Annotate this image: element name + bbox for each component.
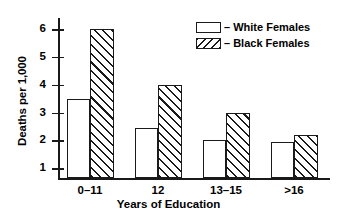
y-axis-line (58, 18, 60, 180)
bar-black-females-1 (158, 85, 182, 179)
bar-white-females-1 (135, 128, 159, 179)
legend-item-black-females: – Black Females (196, 36, 310, 50)
chart-legend: – White Females– Black Females (196, 20, 310, 52)
y-tick-3: 3 (52, 113, 64, 114)
x-tick-label-3: >16 (284, 184, 304, 196)
x-tick-label-2: 13–15 (210, 184, 242, 196)
legend-label-0: – White Females (224, 21, 310, 33)
legend-label-1: – Black Females (224, 37, 310, 49)
bar-black-females-0 (90, 29, 114, 178)
y-tick-2: 2 (52, 140, 64, 141)
bar-white-females-0 (67, 99, 91, 179)
y-tick-4: 4 (52, 85, 64, 86)
x-tick-label-0: 0–11 (78, 184, 103, 196)
legend-swatch-hatched-icon (196, 38, 221, 49)
y-tick-label-6: 6 (40, 23, 46, 35)
bar-black-females-2 (226, 113, 250, 179)
legend-swatch-open-icon (196, 22, 221, 33)
y-tick-label-2: 2 (40, 135, 46, 147)
y-tick-label-4: 4 (40, 79, 46, 91)
y-tick-6: 6 (52, 29, 64, 30)
bar-chart-figure: Deaths per 1,000 123456 0–111213–15>16 Y… (0, 0, 337, 220)
bar-black-females-3 (294, 135, 318, 179)
y-tick-label-3: 3 (40, 107, 46, 119)
y-axis-title: Deaths per 1,000 (16, 26, 28, 176)
bar-white-females-2 (203, 140, 227, 178)
y-tick-5: 5 (52, 57, 64, 58)
x-tick-label-1: 12 (152, 184, 165, 196)
y-tick-1: 1 (52, 168, 64, 169)
y-tick-label-1: 1 (40, 162, 46, 174)
x-axis-line (58, 178, 330, 180)
x-axis-title: Years of Education (0, 198, 337, 210)
bar-white-females-3 (271, 142, 295, 179)
legend-item-white-females: – White Females (196, 20, 310, 34)
y-tick-label-5: 5 (40, 51, 46, 63)
